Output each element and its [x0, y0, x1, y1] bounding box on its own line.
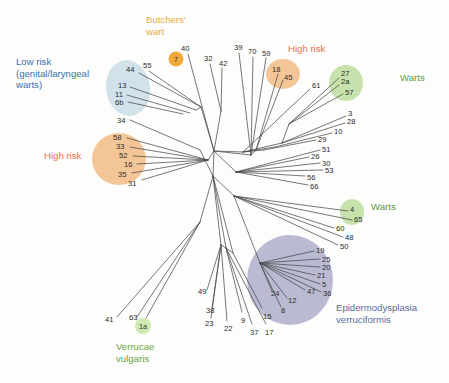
- tip-label-60: 60: [336, 225, 344, 233]
- tip-label-53: 53: [325, 167, 333, 175]
- tip-label-6b: 6b: [115, 99, 123, 107]
- terminal-branch-32: [210, 64, 221, 111]
- tip-label-10: 10: [334, 128, 342, 136]
- badge-7: 7: [166, 56, 186, 63]
- tip-label-44: 44: [126, 66, 134, 74]
- tip-label-51: 51: [322, 146, 330, 154]
- tip-label-28: 28: [347, 118, 355, 126]
- internal-branch: [214, 151, 236, 172]
- tip-label-38: 38: [206, 307, 214, 315]
- tip-label-39: 39: [234, 44, 242, 52]
- terminal-branch-1a: [146, 222, 200, 318]
- group-label-low-risk: Low risk (genital/laryngeal warts): [16, 56, 89, 91]
- tip-label-24: 24: [271, 290, 279, 298]
- terminal-branch-22: [221, 245, 227, 321]
- tip-label-8: 8: [281, 307, 285, 315]
- tip-label-58: 58: [113, 134, 121, 142]
- group-label-high-risk-right: High risk: [288, 43, 325, 55]
- tip-label-57: 57: [345, 89, 353, 97]
- tip-label-49: 49: [198, 288, 206, 296]
- group-label-epidermodysplasia-verruciformis: Epidermodysplasia verruciformis: [336, 302, 417, 325]
- group-label-verrucae-vulgaris: Verrucae vulgaris: [116, 341, 154, 364]
- terminal-branch-63: [137, 222, 200, 317]
- tip-label-59: 59: [262, 50, 270, 58]
- tip-label-41: 41: [105, 316, 113, 324]
- badge-1a: 1a: [133, 323, 153, 330]
- terminal-branch-2a: [289, 85, 339, 124]
- terminal-branch-49: [207, 245, 221, 290]
- terminal-branch-42: [221, 68, 222, 111]
- tip-label-40: 40: [181, 45, 189, 53]
- tip-label-21: 21: [317, 272, 325, 280]
- tip-label-45: 45: [284, 74, 292, 82]
- tip-label-22: 22: [224, 325, 232, 333]
- internal-branch: [214, 151, 243, 152]
- tip-label-48: 48: [345, 234, 353, 242]
- tip-label-63: 63: [129, 314, 137, 322]
- tip-label-33: 33: [116, 143, 124, 151]
- tip-label-31: 31: [128, 180, 136, 188]
- terminal-branch-4: [234, 196, 348, 211]
- terminal-branch-57: [289, 94, 343, 124]
- tip-label-18: 18: [272, 66, 280, 74]
- terminal-branch-48: [234, 196, 343, 237]
- terminal-branch-45: [256, 80, 283, 150]
- terminal-branch-61: [243, 89, 310, 152]
- tip-label-65: 65: [354, 216, 362, 224]
- tip-label-16: 16: [124, 161, 132, 169]
- internal-branch: [214, 111, 221, 151]
- terminal-branch-55: [149, 71, 201, 107]
- tip-label-2a: 2a: [341, 78, 349, 86]
- tip-label-55: 55: [143, 62, 151, 70]
- terminal-branch-40: [188, 54, 214, 151]
- tip-label-66: 66: [310, 183, 318, 191]
- tip-label-9: 9: [241, 317, 245, 325]
- tip-label-17: 17: [265, 329, 273, 337]
- tip-label-29: 29: [318, 136, 326, 144]
- tip-label-19: 19: [316, 247, 324, 255]
- tip-label-61: 61: [312, 82, 320, 90]
- tip-label-52: 52: [119, 152, 127, 160]
- tip-label-36: 36: [323, 290, 331, 298]
- tip-label-56: 56: [307, 174, 315, 182]
- tip-label-42: 42: [219, 60, 227, 68]
- terminal-branch-9: [226, 248, 242, 312]
- tip-label-13: 13: [118, 82, 126, 90]
- internal-branch: [213, 176, 233, 253]
- tip-label-35: 35: [118, 171, 126, 179]
- internal-branch: [200, 150, 213, 176]
- terminal-branch-41: [117, 222, 200, 317]
- terminal-branch-26: [236, 157, 309, 172]
- terminal-branch-51: [236, 150, 320, 172]
- internal-branch: [208, 151, 214, 160]
- tip-label-23: 23: [205, 320, 213, 328]
- high-risk-right-blob: [266, 59, 300, 89]
- tip-label-26: 26: [311, 153, 319, 161]
- terminal-branch-65: [234, 196, 352, 220]
- tip-label-12: 12: [288, 297, 296, 305]
- group-label-butchers-wart: Butchers' wart: [146, 14, 186, 37]
- tip-label-34: 34: [117, 117, 125, 125]
- phylogenetic-tree-figure: Low risk (genital/laryngeal warts) Butch…: [0, 0, 449, 383]
- tip-label-47: 47: [307, 288, 315, 296]
- tip-label-4: 4: [350, 206, 354, 214]
- internal-branch: [196, 107, 201, 110]
- internal-branch: [213, 151, 214, 176]
- tip-label-70: 70: [248, 48, 256, 56]
- group-label-high-risk-left: High risk: [44, 150, 81, 162]
- tip-label-5: 5: [322, 281, 326, 289]
- tip-label-50: 50: [340, 243, 348, 251]
- terminal-branch-18: [256, 74, 278, 150]
- tip-label-37: 37: [250, 329, 258, 337]
- terminal-branch-70: [251, 57, 253, 155]
- group-label-warts-bottom: Warts: [371, 201, 396, 213]
- terminal-branch-39: [239, 53, 251, 155]
- group-label-warts-top: Warts: [400, 72, 425, 84]
- internal-branch: [200, 176, 213, 222]
- tip-label-15: 15: [263, 313, 271, 321]
- terminal-branch-60: [234, 196, 334, 228]
- tip-label-32: 32: [204, 55, 212, 63]
- internal-branch: [213, 176, 221, 245]
